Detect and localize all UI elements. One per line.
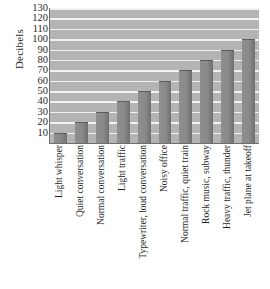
bar-series [50,8,259,143]
bar[interactable] [96,112,109,143]
y-tick-label: 20 [20,117,48,127]
x-tick-label: Normal traffic, quiet train [180,145,190,243]
bar[interactable] [138,91,151,143]
y-tick-label: 70 [20,65,48,75]
x-tick-slot: Jet plane at takeoff [237,145,258,287]
plot-area [49,8,259,144]
x-tick-label: Light traffic [117,145,127,191]
y-axis-tick-labels: 102030405060708090100110120130 [20,2,48,148]
bar-slot [134,8,155,143]
x-tick-label: Quiet conversation [75,145,85,217]
x-tick-slot: Typewriter, loud conversation [133,145,154,287]
y-tick-label: 80 [20,55,48,65]
y-tick-label: 60 [20,76,48,86]
bar-slot [113,8,134,143]
y-tick-label: 90 [20,45,48,55]
bar-slot [238,8,259,143]
x-tick-slot: Normal conversation [91,145,112,287]
x-tick-slot: Rock music, subway [195,145,216,287]
x-tick-label: Typewriter, loud conversation [138,145,148,259]
bar[interactable] [242,39,255,143]
bar-slot [50,8,71,143]
bar[interactable] [75,122,88,143]
x-tick-slot: Noisy office [154,145,175,287]
bar[interactable] [221,50,234,143]
x-tick-slot: Heavy traffic, thunder [216,145,237,287]
bar[interactable] [159,81,172,143]
x-axis-tick-labels: Light whisperQuiet conversationNormal co… [49,145,258,287]
x-tick-label: Rock music, subway [201,145,211,224]
x-tick-label: Heavy traffic, thunder [222,145,232,229]
y-tick-label: 120 [20,13,48,23]
bar-chart: Decibels 102030405060708090100110120130 … [0,0,270,289]
x-tick-label: Noisy office [159,145,169,192]
bar-slot [217,8,238,143]
x-tick-slot: Normal traffic, quiet train [174,145,195,287]
x-tick-slot: Light whisper [49,145,70,287]
y-tick-label: 100 [20,34,48,44]
x-tick-label: Normal conversation [96,145,106,225]
y-tick-label: 110 [20,24,48,34]
x-tick-label: Light whisper [54,145,64,198]
bar-slot [92,8,113,143]
bar-slot [175,8,196,143]
y-tick-label: 30 [20,107,48,117]
x-tick-slot: Light traffic [112,145,133,287]
bar[interactable] [200,60,213,143]
x-tick-slot: Quiet conversation [70,145,91,287]
bar-slot [71,8,92,143]
y-tick-label: 10 [20,128,48,138]
bar[interactable] [179,70,192,143]
y-tick-label: 40 [20,96,48,106]
y-tick-label: 130 [20,3,48,13]
bar-slot [196,8,217,143]
bar-slot [155,8,176,143]
y-tick-label: 50 [20,86,48,96]
bar[interactable] [54,133,67,143]
bar[interactable] [117,101,130,143]
x-tick-label: Jet plane at takeoff [243,145,253,217]
